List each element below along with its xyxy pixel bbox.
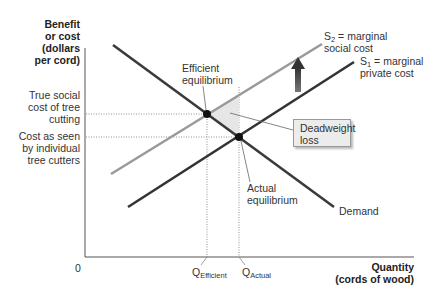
private-cost-label: Cost as seen by individual tree cutters [4, 130, 80, 166]
q-actual-tick [239, 257, 245, 265]
efficient-equilibrium-point [203, 110, 211, 118]
s1-label: S1 = marginal private cost [360, 55, 423, 79]
efficient-leader [203, 86, 206, 110]
deadweight-loss-label: Deadweight loss [293, 119, 351, 147]
q-efficient-label: QEfficient [192, 266, 227, 278]
dwl-leader [230, 113, 293, 130]
q-efficient-tick [201, 257, 207, 265]
q-actual-label: QActual [242, 266, 271, 278]
y-axis-title: Benefit or cost (dollars per cord) [14, 18, 80, 66]
x-axis-title: Quantity (cords of wood) [318, 261, 414, 285]
actual-leader [241, 141, 250, 182]
s2-label: S2 = marginal social cost [324, 30, 387, 54]
demand-label: Demand [339, 205, 379, 217]
efficient-equilibrium-label: Efficient equilibrium [182, 62, 233, 86]
actual-equilibrium-point [235, 133, 243, 141]
origin-label: 0 [75, 262, 81, 274]
true-social-cost-label: True social cost of tree cutting [4, 89, 80, 125]
actual-equilibrium-label: Actual equilibrium [247, 182, 298, 206]
